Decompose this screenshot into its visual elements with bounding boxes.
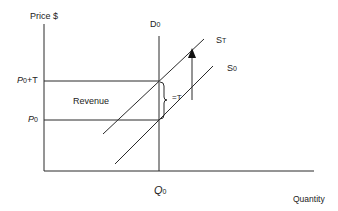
diagram-canvas (0, 0, 338, 211)
tax-amount-label: =T (172, 94, 182, 102)
revenue-label: Revenue (73, 97, 109, 106)
y-axis-label: Price $ (30, 12, 58, 21)
demand-label: D0 (150, 20, 160, 29)
quantity-original-label: Q0 (154, 185, 166, 196)
price-original-label: P0 (28, 115, 38, 124)
price-taxed-label: P0+T (17, 76, 38, 85)
supply-taxed-label: ST (216, 36, 226, 45)
supply-original-label: S0 (227, 64, 237, 73)
x-axis-label: Quantity (293, 195, 325, 204)
